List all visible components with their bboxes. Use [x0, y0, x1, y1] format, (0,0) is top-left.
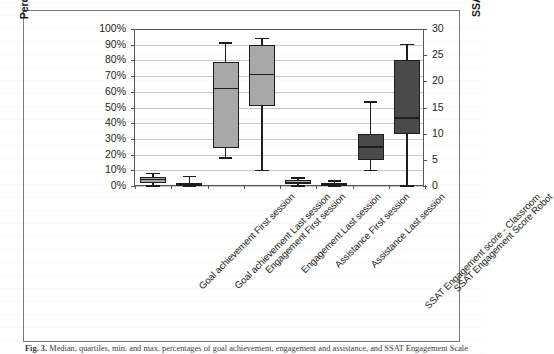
- x-axis-category-label: SSAT Engagement score - Classroom: [422, 191, 542, 311]
- y-axis-right-title: SSAT EngagementScale score: [470, 0, 482, 17]
- whisker-cap-max: [328, 180, 342, 182]
- box-plot: [171, 29, 207, 185]
- whisker-lower: [406, 134, 408, 186]
- y-axis-right-tick-label: 25: [432, 48, 454, 60]
- x-axis-tick: [244, 185, 245, 189]
- x-axis-tick: [135, 185, 136, 189]
- x-axis-tick: [280, 185, 281, 189]
- median-line: [140, 179, 166, 181]
- y-axis-left-tick-label: 80%: [86, 53, 126, 65]
- y-axis-right-tick-label: 5: [432, 153, 454, 165]
- box-plot: [208, 29, 244, 185]
- box-plot: [353, 29, 389, 185]
- median-line: [176, 184, 202, 186]
- y-axis-right-tick-label: 10: [432, 127, 454, 139]
- caption-label: Fig. 3.: [25, 344, 47, 353]
- whisker-cap-min: [219, 157, 233, 159]
- x-axis-tick: [171, 185, 172, 189]
- x-axis-tick: [389, 185, 390, 189]
- box-iqr-rect: [394, 60, 420, 133]
- x-axis-tick: [316, 185, 317, 189]
- whisker-cap-max: [400, 44, 414, 46]
- whisker-cap-min: [364, 170, 378, 172]
- whisker-cap-min: [255, 170, 269, 172]
- plot-area: [134, 29, 424, 186]
- whisker-cap-min: [291, 185, 305, 187]
- box-plot: [280, 29, 316, 185]
- box-iqr-rect: [213, 62, 239, 148]
- box-plot: [244, 29, 280, 185]
- y-axis-left-title: Percentage: [18, 0, 30, 51]
- y-axis-left-tick-label: 60%: [86, 85, 126, 97]
- whisker-cap-max: [291, 177, 305, 179]
- x-axis-category-label: Assistance Last session: [369, 191, 448, 270]
- median-line: [285, 182, 311, 184]
- gridline: [135, 186, 423, 187]
- x-axis-tick: [425, 185, 426, 189]
- median-line: [249, 74, 275, 76]
- caption-body: Median, quartiles, min. and max. percent…: [25, 344, 468, 354]
- whisker-cap-min: [400, 185, 414, 187]
- whisker-cap-min: [146, 185, 160, 187]
- y-axis-left-tick-label: 10%: [86, 163, 126, 175]
- median-line: [213, 88, 239, 90]
- median-line: [358, 146, 384, 148]
- figure-frame: Percentage SSAT EngagementScale score 10…: [23, 10, 460, 342]
- box-plot: [316, 29, 352, 185]
- median-line: [394, 117, 420, 119]
- box-plot: [389, 29, 425, 185]
- y-axis-left-tick-label: 0%: [86, 179, 126, 191]
- whisker-lower: [261, 106, 263, 170]
- y-axis-left-tick-label: 20%: [86, 148, 126, 160]
- whisker-cap-max: [219, 42, 233, 44]
- y-axis-left-tick-label: 40%: [86, 116, 126, 128]
- y-axis-left-tick-label: 50%: [86, 101, 126, 113]
- y-axis-left-tick-label: 90%: [86, 38, 126, 50]
- y-axis-right-tick-label: 30: [432, 22, 454, 34]
- whisker-cap-max: [364, 101, 378, 103]
- whisker-cap-max: [183, 176, 197, 178]
- figure-caption: Fig. 3. Median, quartiles, min. and max.…: [25, 344, 475, 354]
- whisker-upper: [225, 43, 227, 62]
- y-axis-right-tick-label: 20: [432, 74, 454, 86]
- x-axis-tick: [208, 185, 209, 189]
- y-axis-left-tick-label: 70%: [86, 69, 126, 81]
- whisker-upper: [406, 45, 408, 61]
- x-axis-tick: [353, 185, 354, 189]
- box-plot: [135, 29, 171, 185]
- median-line: [321, 184, 347, 186]
- y-axis-left-tick-label: 100%: [86, 22, 126, 34]
- y-axis-left-tick-label: 30%: [86, 132, 126, 144]
- whisker-cap-max: [146, 173, 160, 175]
- y-axis-right-tick-label: 0: [432, 179, 454, 191]
- whisker-upper: [370, 102, 372, 133]
- box-iqr-rect: [249, 45, 275, 106]
- y-axis-right-tick-label: 15: [432, 101, 454, 113]
- whisker-cap-max: [255, 38, 269, 40]
- x-axis-category-label: SSAT Engagement Score Robot: [451, 191, 554, 294]
